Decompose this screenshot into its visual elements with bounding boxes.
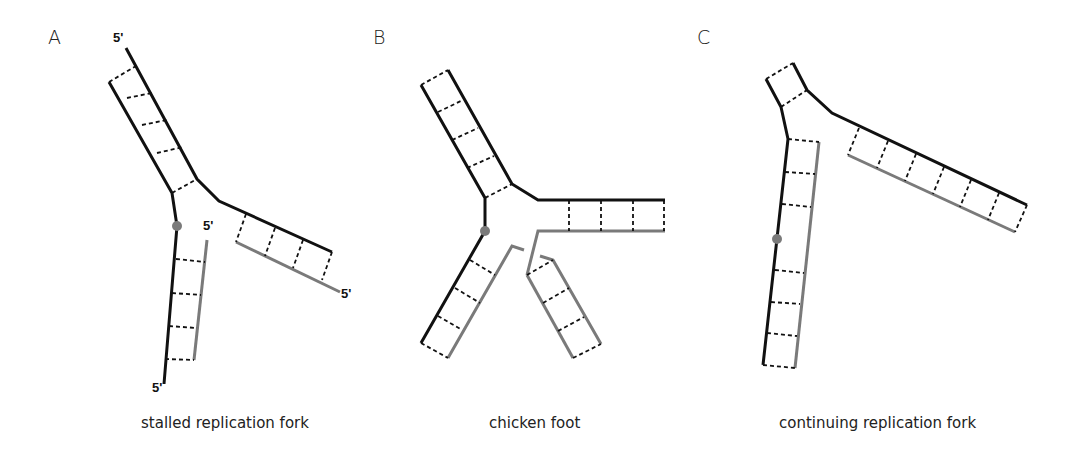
panel-c-right-bonds	[848, 128, 1027, 232]
panel-b-regressed-arm-outer	[540, 256, 601, 344]
panel-c-upper-bonds	[766, 63, 807, 107]
panel-b-right-bonds	[569, 200, 664, 231]
panel-b-upper-bonds	[421, 70, 512, 198]
panel-b-parental-strand-upper-inner	[421, 85, 485, 343]
panel-c-parental-strand-upper-inner	[763, 79, 788, 365]
panel-a-nascent-strand-lower	[194, 240, 207, 360]
panel-b-diagram	[421, 70, 665, 358]
panel-c-nascent-strand-lower	[795, 142, 819, 368]
panel-c-lower-bonds	[763, 139, 819, 368]
panel-a-lesion-dot	[172, 221, 182, 231]
panel-a-five-prime-bottom: 5'	[152, 380, 162, 395]
panel-b-regressed-arm-inner	[527, 275, 573, 358]
panel-c-letter: C	[697, 26, 710, 48]
panel-b-nascent-strand-right	[527, 231, 665, 275]
panel-b-letter: B	[373, 26, 385, 48]
panel-c-diagram	[763, 63, 1027, 368]
panel-c-nascent-strand-right	[848, 155, 1015, 232]
panel-a-parental-strand-upper-outer	[126, 48, 332, 252]
panel-a-parental-strand-upper-inner	[109, 82, 177, 384]
panel-c-caption: continuing replication fork	[779, 414, 976, 432]
panel-b-nascent-strand-lower-left	[448, 246, 524, 358]
panel-a-diagram	[109, 48, 340, 384]
panel-a-five-prime-top: 5'	[113, 30, 123, 45]
panel-b-parental-strand-upper-outer	[448, 70, 665, 200]
panel-a-caption: stalled replication fork	[141, 414, 309, 432]
panel-a-five-prime-right-nascent: 5'	[341, 286, 351, 301]
panel-a-upper-bonds	[109, 66, 197, 193]
panel-a-letter: A	[48, 26, 61, 48]
panel-b-caption: chicken foot	[489, 414, 580, 432]
panel-a-five-prime-lower-nascent: 5'	[203, 218, 213, 233]
panel-b-lesion-dot	[480, 226, 490, 236]
panel-c-lesion-dot	[772, 234, 782, 244]
